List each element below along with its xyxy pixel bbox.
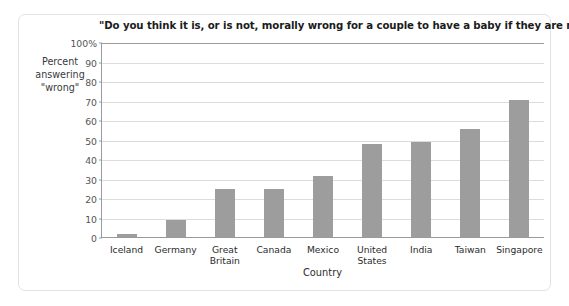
x-axis-title: Country <box>101 267 544 278</box>
bar-group: Iceland <box>102 43 151 238</box>
y-axis-title-line-3: "wrong" <box>29 81 91 94</box>
bar-group: Germany <box>151 43 200 238</box>
bar[interactable] <box>215 189 235 238</box>
bar[interactable] <box>411 142 431 238</box>
y-axis-title-line-2: answering <box>29 68 91 81</box>
bar-series: IcelandGermanyGreat BritainCanadaMexicoU… <box>102 43 544 238</box>
bar[interactable] <box>264 189 284 238</box>
bar[interactable] <box>166 220 186 238</box>
plot-area: 0102030405060708090100% IcelandGermanyGr… <box>101 43 544 238</box>
y-axis-tick-label: 90 <box>85 57 97 68</box>
y-axis-tick-label: 50 <box>85 135 97 146</box>
bar[interactable] <box>460 129 480 238</box>
bar-group: Singapore <box>495 43 544 238</box>
y-axis-tick-label: 80 <box>85 77 97 88</box>
chart-figure: "Do you think it is, or is not, morally … <box>18 14 551 291</box>
y-axis-tick-label: 40 <box>85 155 97 166</box>
y-axis-title-line-1: Percent <box>29 55 91 68</box>
chart-title: "Do you think it is, or is not, morally … <box>99 20 544 31</box>
bar[interactable] <box>313 176 333 238</box>
y-axis-tick-label: 70 <box>85 96 97 107</box>
bar-group: India <box>397 43 446 238</box>
y-axis-tick-label: 0 <box>91 233 97 244</box>
x-axis-category-label: Singapore <box>490 244 548 255</box>
y-axis-tick-label: 30 <box>85 174 97 185</box>
bar[interactable] <box>509 100 529 238</box>
bar-group: United States <box>348 43 397 238</box>
y-axis-tick-label: 60 <box>85 116 97 127</box>
bar-group: Canada <box>249 43 298 238</box>
y-axis-tick-label: 10 <box>85 213 97 224</box>
bar[interactable] <box>362 144 382 238</box>
x-axis-line <box>102 237 544 238</box>
bar-group: Great Britain <box>200 43 249 238</box>
y-axis-tick-label: 20 <box>85 194 97 205</box>
bar-group: Mexico <box>298 43 347 238</box>
y-axis-tick-label: 100% <box>70 38 97 49</box>
bar-group: Taiwan <box>446 43 495 238</box>
y-axis-title: Percent answering "wrong" <box>29 55 91 94</box>
